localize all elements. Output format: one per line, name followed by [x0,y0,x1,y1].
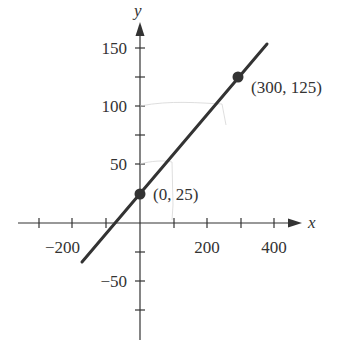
x-axis [18,218,302,228]
point-300-125 [233,72,244,83]
x-axis-label: x [307,213,316,232]
chart: x y −200 200 400 150 100 50 −50 (0, 25) … [0,0,340,344]
x-tick-label-200: 200 [194,238,220,257]
y-tick-label-150: 150 [102,39,128,58]
x-tick-label-neg200: −200 [45,238,80,257]
x-axis-arrow-icon [288,219,302,228]
y-axis-arrow-icon [136,22,145,36]
point-0-25 [135,189,146,200]
y-tick-label-neg50: −50 [100,272,127,291]
x-tick-label-400: 400 [261,238,287,257]
y-axis-label: y [132,1,142,20]
point-label-0-25: (0, 25) [153,185,198,204]
y-axis [135,22,145,340]
y-tick-label-100: 100 [102,97,128,116]
y-tick-label-50: 50 [110,155,127,174]
point-label-300-125: (300, 125) [251,78,322,97]
